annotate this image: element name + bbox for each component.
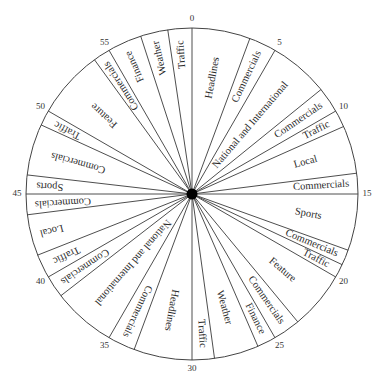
- center-hub: [187, 189, 198, 200]
- minute-tick-label: 25: [275, 340, 285, 350]
- minute-tick-label: 10: [339, 101, 349, 111]
- minute-tick-label: 50: [36, 101, 46, 111]
- minute-tick-label: 40: [36, 276, 46, 286]
- segment-label: Traffic: [196, 319, 209, 349]
- radio-clock-chart: HeadlinesCommercialsNational and Interna…: [0, 0, 379, 389]
- minute-tick-label: 5: [277, 37, 282, 47]
- minute-tick-label: 55: [100, 37, 110, 47]
- minute-tick-label: 0: [190, 13, 195, 23]
- segment-label: Traffic: [174, 40, 187, 70]
- minute-tick-label: 30: [188, 363, 198, 373]
- minute-tick-label: 45: [13, 188, 23, 198]
- segment-label: Sports: [36, 181, 63, 194]
- minute-tick-label: 20: [339, 276, 349, 286]
- minute-tick-label: 15: [363, 188, 373, 198]
- minute-tick-label: 35: [100, 340, 110, 350]
